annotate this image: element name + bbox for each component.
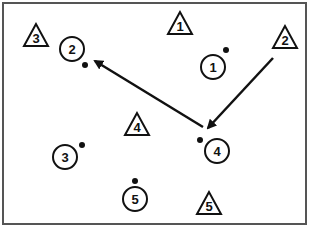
triangle-label: 2 <box>281 33 288 48</box>
ball-dot-icon <box>197 137 203 143</box>
circle-label: 5 <box>131 192 138 207</box>
ball-dot-icon <box>132 178 138 184</box>
ball-dot-icon <box>82 62 88 68</box>
triangle-marker-1: 1 <box>168 12 192 34</box>
circle-label: 2 <box>68 42 75 57</box>
triangle-label: 3 <box>32 31 39 46</box>
play-diagram: 12345 12345 <box>0 0 313 230</box>
triangle-marker-2: 2 <box>273 26 297 48</box>
circle-label: 3 <box>61 150 68 165</box>
circle-marker-2: 2 <box>60 37 88 68</box>
circle-marker-4: 4 <box>197 137 229 163</box>
diagram-frame <box>3 3 306 224</box>
circle-marker-5: 5 <box>123 178 147 211</box>
triangle-label: 1 <box>176 19 183 34</box>
triangle-marker-4: 4 <box>125 113 149 135</box>
ball-dot-icon <box>223 47 229 53</box>
triangle-label: 4 <box>133 120 141 135</box>
arrows-group <box>95 58 273 128</box>
circle-label: 1 <box>209 60 216 75</box>
ball-dot-icon <box>79 142 85 148</box>
triangle-marker-3: 3 <box>24 24 48 46</box>
triangle-label: 5 <box>205 199 212 214</box>
triangle-marker-5: 5 <box>197 192 221 214</box>
circle-label: 4 <box>213 144 221 159</box>
circle-marker-3: 3 <box>53 142 85 169</box>
circle-marker-1: 1 <box>201 47 229 79</box>
arrow-2 <box>95 61 203 127</box>
